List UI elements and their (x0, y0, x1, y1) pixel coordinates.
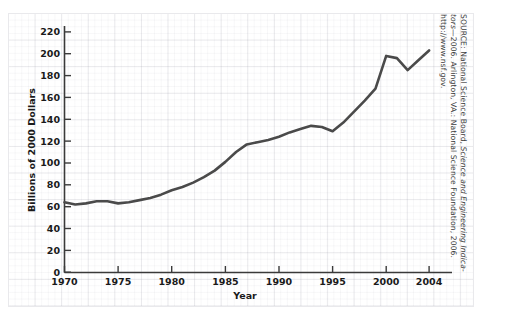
source-note-citation: —2006. Arlington, VA.: National Science … (449, 29, 458, 258)
x-tick-label: 1985 (212, 276, 238, 287)
x-axis-ticks (65, 266, 430, 273)
y-tick-label: 80 (47, 179, 61, 190)
figure-container: 0 20 40 60 80 100 120 140 160 180 200 22… (0, 0, 519, 318)
y-tick-label: 220 (40, 26, 60, 37)
x-tick-label: 1975 (105, 276, 131, 287)
x-axis-tick-labels: 1970 1975 1980 1985 1990 1995 2000 2004 (51, 276, 442, 287)
source-note-prefix: SOURCE: National Science Board, (459, 14, 468, 147)
y-axis-tick-labels: 0 20 40 60 80 100 120 140 160 180 200 22… (40, 26, 60, 277)
y-tick-label: 20 (47, 245, 61, 256)
y-tick-label: 60 (47, 201, 61, 212)
y-axis-title: Billions of 2000 Dollars (26, 88, 37, 212)
x-tick-label: 1970 (51, 276, 78, 287)
source-note-title-part2: tors (449, 14, 458, 29)
x-tick-label: 1990 (266, 276, 293, 287)
x-axis-title: Year (232, 290, 257, 301)
y-tick-label: 120 (40, 136, 60, 147)
source-note-title-part1: Science and Engineering Indica- (459, 147, 468, 272)
x-tick-label: 1995 (319, 276, 345, 287)
data-series-line (65, 50, 430, 204)
x-tick-label: 2000 (373, 276, 400, 287)
y-tick-label: 140 (40, 114, 60, 125)
source-note-line-1: SOURCE: National Science Board, Science … (458, 14, 468, 306)
y-tick-label: 160 (40, 92, 60, 103)
y-tick-label: 200 (40, 48, 60, 59)
y-tick-label: 40 (47, 223, 61, 234)
y-tick-label: 180 (40, 70, 60, 81)
y-tick-label: 100 (40, 157, 60, 168)
source-note-line-3: http://www.nsf.gov. (437, 14, 447, 306)
source-note-line-2: tors—2006. Arlington, VA.: National Scie… (448, 14, 458, 306)
source-note: SOURCE: National Science Board, Science … (422, 14, 468, 306)
y-axis-ticks (65, 32, 72, 272)
x-tick-label: 1980 (158, 276, 185, 287)
